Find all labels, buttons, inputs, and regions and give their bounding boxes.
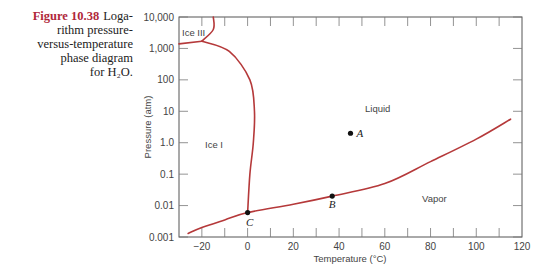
x-tick-label: 120 bbox=[514, 241, 531, 252]
point-A-marker bbox=[348, 131, 353, 136]
y-tick-label: 0.001 bbox=[149, 232, 174, 243]
point-C-marker bbox=[245, 210, 250, 215]
x-tick-label: 100 bbox=[468, 241, 485, 252]
region-label-liquid: Liquid bbox=[365, 103, 390, 114]
x-tick-label: 40 bbox=[334, 241, 346, 252]
region-label-ice-i: Ice I bbox=[205, 139, 223, 150]
x-axis-title: Temperature (°C) bbox=[314, 253, 387, 264]
x-tick-label: 20 bbox=[288, 241, 300, 252]
phase-boundary-1 bbox=[202, 41, 255, 212]
x-tick-label: −20 bbox=[193, 241, 210, 252]
x-tick-label: 0 bbox=[245, 241, 251, 252]
y-tick-label: 1,000 bbox=[149, 43, 174, 54]
region-label-vapor: Vapor bbox=[422, 193, 447, 204]
y-tick-label: 1.0 bbox=[160, 137, 174, 148]
phase-boundary-2 bbox=[179, 41, 202, 44]
y-axis-title: Pressure (atm) bbox=[142, 96, 153, 159]
y-tick-label: 0.01 bbox=[155, 200, 175, 211]
y-tick-label: 100 bbox=[157, 74, 174, 85]
point-B-label: B bbox=[329, 198, 336, 210]
point-C-label: C bbox=[246, 216, 254, 228]
x-tick-label: 80 bbox=[425, 241, 437, 252]
region-label-ice-iii: Ice III bbox=[182, 27, 205, 38]
plot-frame bbox=[179, 17, 522, 237]
data-points: ABC bbox=[245, 127, 363, 228]
region-labels: Ice III Ice I Liquid Vapor bbox=[182, 27, 447, 204]
y-tick-label: 10,000 bbox=[143, 12, 174, 23]
phase-diagram-chart: −200204060801001200.0010.010.11.0101001,… bbox=[0, 0, 560, 276]
x-tick-label: 60 bbox=[379, 241, 391, 252]
axes: −200204060801001200.0010.010.11.0101001,… bbox=[143, 12, 530, 253]
phase-boundary-0 bbox=[188, 119, 510, 233]
point-A-label: A bbox=[356, 127, 364, 139]
y-tick-label: 0.1 bbox=[160, 169, 174, 180]
phase-boundary-curves bbox=[179, 17, 511, 233]
y-tick-label: 10 bbox=[163, 106, 175, 117]
